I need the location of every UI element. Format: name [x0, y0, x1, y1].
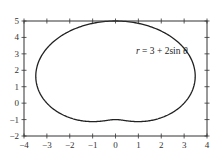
- plot-frame: [24, 21, 207, 136]
- x-tick-label: 3: [182, 140, 187, 150]
- equation-annotation: r = 3 + 2sin θ: [136, 46, 188, 56]
- y-tick-label: −1: [9, 115, 19, 125]
- y-tick-label: 4: [15, 32, 20, 42]
- y-tick-label: 3: [15, 49, 20, 59]
- x-tick-label: 1: [136, 140, 141, 150]
- x-tick-label: 2: [159, 140, 164, 150]
- x-tick-label: −3: [42, 140, 52, 150]
- curve-layer: [36, 21, 195, 122]
- x-tick-label: −1: [88, 140, 98, 150]
- y-tick-label: 5: [15, 16, 20, 26]
- axes-frame: [24, 21, 207, 136]
- x-tick-label: −4: [19, 140, 29, 150]
- y-tick-label: 2: [15, 65, 20, 75]
- polar-curve: [36, 21, 195, 122]
- tick-marks: [22, 19, 210, 139]
- y-tick-label: 1: [15, 82, 20, 92]
- tick-labels: −4−3−2−101234−2−1012345: [9, 16, 209, 150]
- y-tick-label: 0: [15, 98, 20, 108]
- y-tick-label: −2: [9, 131, 19, 141]
- x-tick-label: 4: [205, 140, 210, 150]
- x-tick-label: 0: [113, 140, 118, 150]
- x-tick-label: −2: [65, 140, 75, 150]
- polar-curve-chart: −4−3−2−101234−2−1012345 r = 3 + 2sin θ: [0, 0, 220, 156]
